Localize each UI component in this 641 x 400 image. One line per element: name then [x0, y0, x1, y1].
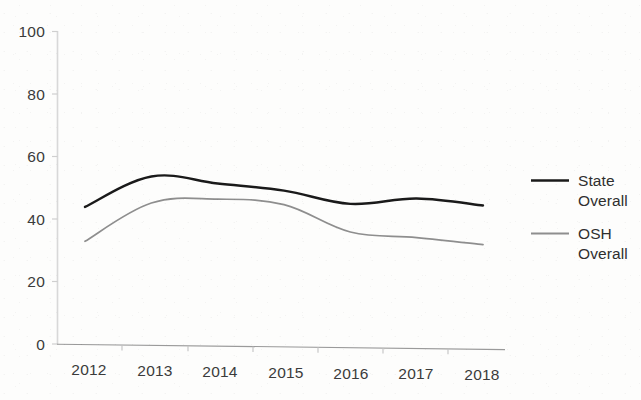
y-tick-label-100: 100	[19, 23, 46, 40]
legend-label-state-line2: Overall	[578, 192, 628, 209]
x-tick-label-2013: 2013	[137, 362, 172, 379]
y-tick-label-40: 40	[27, 211, 45, 228]
line-chart: 100 80 60 40 20 0 2012 2013 2014 2015 20…	[0, 0, 641, 400]
legend-label-osh-line1: OSH	[578, 225, 612, 242]
y-tick-label-0: 0	[36, 336, 45, 353]
chart-screenshot: 100 80 60 40 20 0 2012 2013 2014 2015 20…	[0, 0, 641, 400]
y-tick-label-60: 60	[27, 148, 45, 165]
x-tick-label-2012: 2012	[71, 361, 106, 378]
legend-label-osh-line2: Overall	[578, 245, 628, 262]
x-tick-label-2014: 2014	[202, 363, 237, 380]
x-tick-label-2016: 2016	[333, 365, 368, 382]
x-tick-label-2018: 2018	[464, 366, 499, 383]
x-tick-label-2017: 2017	[398, 365, 433, 382]
y-tick-label-20: 20	[27, 273, 45, 290]
legend-label-state-line1: State	[578, 172, 615, 189]
x-tick-label-2015: 2015	[268, 364, 303, 381]
y-tick-label-80: 80	[27, 86, 45, 103]
